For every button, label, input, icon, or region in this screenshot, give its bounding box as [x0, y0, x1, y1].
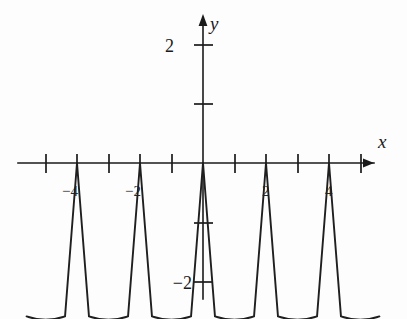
y-axis-tick-labels: 2 −2 — [165, 36, 192, 293]
graph-figure: x y −4 — [0, 0, 407, 319]
y-tick-label-2: 2 — [165, 36, 174, 56]
x-axis-label: x — [377, 131, 387, 152]
x-axis-tick-labels: −4 −2 2 4 — [62, 183, 333, 199]
y-axis-arrowhead — [199, 14, 208, 26]
y-tick-label--2: −2 — [173, 273, 192, 293]
coordinate-plot: x y −4 — [0, 0, 407, 319]
y-axis-group: y — [199, 13, 219, 299]
x-axis-arrowhead — [363, 159, 374, 168]
y-axis-label: y — [208, 13, 219, 34]
